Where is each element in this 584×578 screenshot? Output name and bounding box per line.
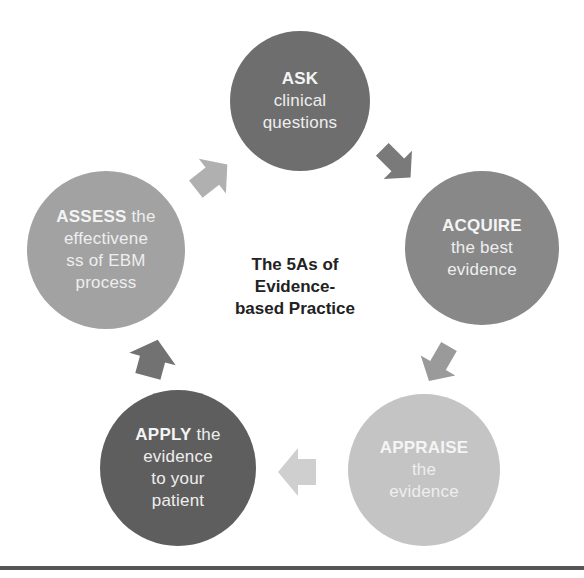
- node-acquire-keyword: ACQUIRE: [442, 216, 522, 235]
- diagram-title-line-3: based Practice: [205, 298, 385, 320]
- node-apply-keyword: APPLY: [135, 425, 191, 444]
- node-apply-keyword-rest: the: [191, 425, 220, 444]
- node-acquire-line-2: evidence: [442, 259, 522, 281]
- arrow-ask-to-acquire-icon: [368, 135, 425, 192]
- node-assess-keyword-rest: the: [127, 207, 156, 226]
- ebm-5as-cycle-diagram: ASK clinical questions ACQUIRE the best …: [0, 0, 584, 578]
- node-ask-line-1: clinical: [263, 90, 338, 112]
- node-apply-line-2: to your: [135, 468, 220, 490]
- arrow-apply-to-assess-icon: [125, 334, 181, 383]
- arrow-acquire-to-appraise-icon: [412, 336, 467, 391]
- node-assess-line-3: process: [56, 272, 155, 294]
- node-acquire: ACQUIRE the best evidence: [405, 171, 559, 325]
- node-assess-keyword: ASSESS: [56, 207, 126, 226]
- diagram-title-line-2: Evidence-: [205, 276, 385, 298]
- node-appraise-keyword: APPRAISE: [380, 438, 469, 457]
- node-assess-line-1: effectivene: [56, 228, 155, 250]
- node-assess-line-2: ss of EBM: [56, 250, 155, 272]
- diagram-title-line-1: The 5As of: [205, 254, 385, 276]
- node-assess: ASSESS the effectivene ss of EBM process: [27, 171, 185, 329]
- node-apply-line-3: patient: [135, 490, 220, 512]
- diagram-title: The 5As of Evidence- based Practice: [205, 254, 385, 320]
- bottom-divider: [0, 566, 584, 570]
- node-apply: APPLY the evidence to your patient: [100, 390, 256, 546]
- node-ask: ASK clinical questions: [230, 31, 370, 171]
- node-appraise-line-1: the: [380, 459, 469, 481]
- node-appraise: APPRAISE the evidence: [348, 394, 500, 546]
- node-ask-keyword: ASK: [282, 69, 319, 88]
- node-acquire-line-1: the best: [442, 237, 522, 259]
- node-apply-line-1: evidence: [135, 446, 220, 468]
- node-appraise-line-2: evidence: [380, 481, 469, 503]
- arrow-appraise-to-apply-icon: [278, 448, 316, 496]
- node-ask-line-2: questions: [263, 112, 338, 134]
- arrow-assess-to-ask-icon: [182, 147, 241, 206]
